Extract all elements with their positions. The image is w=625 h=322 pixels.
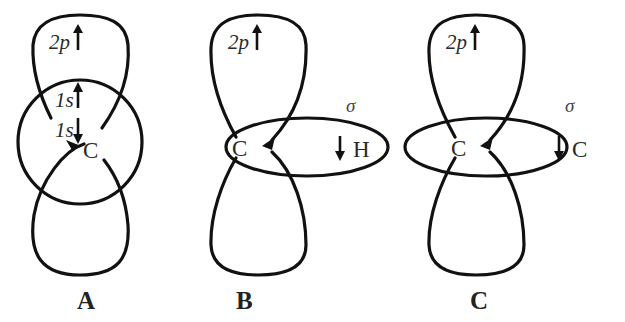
panel-b-2p-label: 2p: [228, 32, 249, 53]
panel-b-2p-up-arrow: [252, 24, 262, 33]
panel-a-lower-1s-label: 1s: [55, 120, 74, 141]
panel-c-2p-up-arrow: [470, 24, 480, 33]
panel-a-1s-up-arrow: [73, 82, 83, 92]
panel-a-carbon-atom: C: [83, 139, 98, 162]
panel-a-2p-bottom-lobe: [33, 144, 129, 275]
panel-a-upper-1s-label: 1s: [55, 90, 74, 111]
panel-c-label: C: [470, 288, 488, 313]
panel-b-carbon-atom: C: [232, 137, 247, 160]
panel-c-carbon-atom-left: C: [451, 137, 466, 160]
panel-a-graphics: [18, 15, 142, 275]
panel-a-label: A: [77, 288, 95, 313]
panel-c-2p-label: 2p: [446, 32, 467, 53]
panel-a-1s-circle: [18, 80, 142, 204]
panel-b-hydrogen-atom: H: [353, 138, 370, 161]
panel-c-carbon-atom-right: C: [572, 138, 587, 161]
panel-b-sigma-label: σ: [346, 96, 355, 115]
panel-a-2p-up-arrow: [73, 24, 83, 33]
panel-b-down-arrow: [335, 151, 345, 161]
panel-a-1s-down-arrow: [73, 134, 83, 144]
panel-b-cusp-arrowhead: [262, 137, 275, 150]
panel-a-2p-label: 2p: [49, 32, 70, 53]
panel-c-sigma-label: σ: [565, 96, 574, 115]
panel-b-2p-top-lobe: [211, 15, 306, 140]
panel-b-label: B: [236, 288, 253, 313]
panel-c-cusp-arrowhead: [480, 137, 493, 150]
panel-c-graphics: [405, 15, 567, 275]
